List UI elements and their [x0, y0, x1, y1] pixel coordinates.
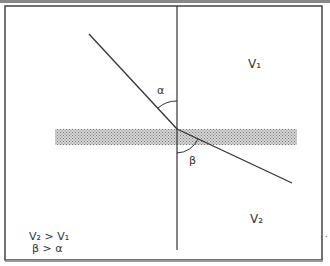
legend-angle: β > α [32, 242, 62, 255]
alpha-label: α [157, 84, 164, 97]
beta-label: β [189, 154, 196, 167]
refraction-diagram: α β V₁ V₂ V₂ > V₁ β > α · [0, 0, 330, 266]
top-edge [0, 0, 330, 3]
alpha-arc [158, 101, 177, 108]
v2-label: V₂ [250, 212, 263, 226]
v1-label: V₁ [248, 57, 261, 71]
bottom-edge [5, 260, 323, 262]
edge-mark: · [325, 233, 328, 242]
incident-ray [89, 34, 177, 129]
interface-band [55, 129, 297, 145]
